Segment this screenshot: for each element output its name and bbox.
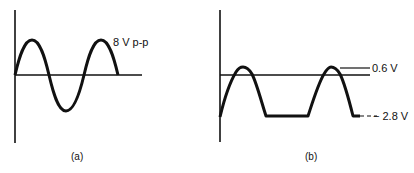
waveform-diagram: 8 V p-p (a) 0.6 V − 2.8 V (b) <box>0 0 414 173</box>
panel-b-bottom-level-label: − 2.8 V <box>373 110 409 122</box>
panel-b-top-level-label: 0.6 V <box>372 62 398 74</box>
panel-b-caption: (b) <box>305 151 317 162</box>
panel-a: 8 V p-p (a) <box>15 10 148 162</box>
panel-a-amplitude-label: 8 V p-p <box>113 36 148 48</box>
panel-a-caption: (a) <box>71 151 83 162</box>
panel-b: 0.6 V − 2.8 V (b) <box>220 10 409 162</box>
